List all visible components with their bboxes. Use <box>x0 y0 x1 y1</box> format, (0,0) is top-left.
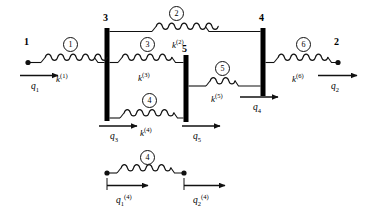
node-label-1: 1 <box>24 37 29 47</box>
spring-entry-element-2 <box>152 27 156 32</box>
stiffness-sup-5: (5) <box>215 92 223 99</box>
spring-entry-element-1 <box>41 58 45 63</box>
lead-element-3-right <box>172 57 184 62</box>
stiffness-label-2: k(2) <box>172 39 184 50</box>
node-label-4: 4 <box>259 13 264 23</box>
detail-spring-entry <box>117 168 121 173</box>
dof-sub-q3: 3 <box>115 136 118 143</box>
figure-canvas <box>0 0 366 218</box>
dof-sub-q4: 4 <box>258 107 261 114</box>
element-number-2: 2 <box>169 6 184 21</box>
detail-spring-coil <box>121 165 171 171</box>
node-label-2: 2 <box>334 37 339 47</box>
element-number-4: 4 <box>142 93 157 108</box>
dof-sub-q1: 1 <box>36 86 39 93</box>
spring-coil-element-2 <box>156 23 218 29</box>
dof-label-q2: q2 <box>331 82 339 93</box>
spring-entry-element-5 <box>206 81 210 86</box>
detail-dof-sup-left: (4) <box>124 193 132 200</box>
spring-entry-element-3 <box>118 58 122 63</box>
dof-label-q3: q3 <box>110 132 118 143</box>
dof-label-q5: q5 <box>193 132 201 143</box>
node-point-2 <box>335 60 340 65</box>
node-label-3: 3 <box>103 13 108 23</box>
detail-dof-sub-left: 1 <box>121 200 124 207</box>
spring-coil-element-5 <box>210 78 235 84</box>
dof-label-q1: q1 <box>31 82 39 93</box>
element-number-5: 5 <box>215 61 230 76</box>
dof-sub-q2: 2 <box>336 86 339 93</box>
stiffness-label-5: k(5) <box>211 93 223 104</box>
stiffness-sup-6: (6) <box>296 72 304 79</box>
stiffness-label-6: k(6) <box>292 73 304 84</box>
spring-entry-element-4 <box>120 113 124 118</box>
stiffness-sup-4: (4) <box>144 126 152 133</box>
rigid-bar-node-5 <box>184 55 189 122</box>
element-number-1: 1 <box>63 37 78 52</box>
detail-dof-sub-right: 2 <box>198 200 201 207</box>
stiffness-label-1: k(1) <box>56 73 68 84</box>
detail-dof-label-right: q2(4) <box>193 194 209 208</box>
stiffness-sup-2: (2) <box>176 38 184 45</box>
spring-assemblage-figure: 1 2 3 4 5 1 2 3 4 5 6 4 k(1) k(2) k(3) k… <box>0 0 366 218</box>
stiffness-label-4: k(4) <box>140 127 152 138</box>
detail-node-point-right <box>181 170 186 175</box>
dof-sub-q5: 5 <box>198 136 201 143</box>
dof-label-q4: q4 <box>253 103 261 114</box>
spring-coil-element-3 <box>122 54 172 60</box>
spring-coil-element-6 <box>278 54 328 60</box>
element-number-3: 3 <box>140 37 155 52</box>
element-number-6: 6 <box>296 37 311 52</box>
detail-dof-sup-right: (4) <box>201 193 209 200</box>
stiffness-sup-3: (3) <box>142 71 150 78</box>
rigid-bar-node-4 <box>261 28 266 96</box>
detail-element-number-4: 4 <box>140 150 155 165</box>
lead-element-4-right <box>174 113 184 118</box>
spring-coil-element-1 <box>45 54 107 60</box>
detail-dof-label-left: q1(4) <box>116 194 132 208</box>
stiffness-label-3: k(3) <box>138 72 150 83</box>
rigid-bar-node-3 <box>105 28 110 121</box>
spring-entry-element-6 <box>274 58 278 63</box>
spring-coil-element-4 <box>124 110 174 116</box>
lead-element-5-right <box>235 81 261 86</box>
stiffness-sup-1: (1) <box>60 72 68 79</box>
